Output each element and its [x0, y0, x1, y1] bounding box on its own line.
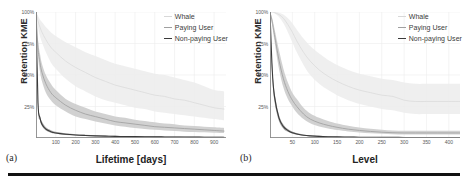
legend-line-swatch-icon — [398, 16, 406, 17]
legend-item-whale: Whale — [398, 12, 462, 21]
legend-b: WhalePaying UserNon-paying User — [398, 12, 462, 43]
legend-line-swatch-icon — [164, 27, 172, 28]
panel-b: Retention KME 100%75%50%25%5010015020025… — [234, 0, 468, 181]
panel-tag-a: (a) — [6, 152, 17, 163]
x-tick-label: 500 — [131, 139, 139, 145]
x-tick-label: 100 — [311, 139, 319, 145]
legend-line-swatch-icon — [398, 38, 406, 39]
y-tick-label: 50% — [258, 72, 268, 78]
panel-tag-b: (b) — [240, 152, 252, 163]
legend-label: Paying User — [409, 24, 448, 31]
legend-item-non-paying-user: Non-paying User — [164, 34, 228, 43]
legend-label: Non-paying User — [175, 35, 228, 42]
legend-a: WhalePaying UserNon-paying User — [164, 12, 228, 43]
x-tick-label: 700 — [171, 139, 179, 145]
y-tick-label: 50% — [24, 72, 34, 78]
y-tick-label: 75% — [258, 41, 268, 47]
legend-item-paying-user: Paying User — [164, 23, 228, 32]
y-tick-label: 25% — [24, 104, 34, 110]
bottom-horizontal-rule — [8, 173, 460, 176]
x-tick-label: 300 — [91, 139, 99, 145]
y-tick-label: 100% — [22, 9, 34, 15]
x-tick-label: 200 — [355, 139, 363, 145]
legend-line-swatch-icon — [164, 38, 172, 39]
x-axis-label-a: Lifetime [days] — [36, 154, 226, 165]
x-tick-label: 400 — [111, 139, 119, 145]
legend-label: Whale — [175, 13, 195, 20]
x-tick-label: 100 — [52, 139, 60, 145]
legend-item-non-paying-user: Non-paying User — [398, 34, 462, 43]
legend-label: Paying User — [175, 24, 214, 31]
legend-label: Non-paying User — [409, 35, 462, 42]
y-axis-label-b: Retention KME — [253, 3, 263, 99]
legend-item-paying-user: Paying User — [398, 23, 462, 32]
y-axis-label-a: Retention KME — [19, 3, 29, 99]
x-axis-label-b: Level — [270, 154, 460, 165]
x-tick-label: 350 — [422, 139, 430, 145]
y-tick-label: 75% — [24, 41, 34, 47]
legend-item-whale: Whale — [164, 12, 228, 21]
legend-line-swatch-icon — [398, 27, 406, 28]
x-tick-label: 600 — [151, 139, 159, 145]
x-tick-label: 800 — [190, 139, 198, 145]
figure-container: Retention KME 100%75%50%25%1002003004005… — [0, 0, 468, 181]
legend-label: Whale — [409, 13, 429, 20]
x-tick-label: 300 — [400, 139, 408, 145]
x-tick-label: 400 — [445, 139, 453, 145]
y-tick-label: 100% — [256, 9, 268, 15]
x-tick-label: 900 — [210, 139, 218, 145]
x-tick-label: 250 — [378, 139, 386, 145]
x-tick-label: 150 — [333, 139, 341, 145]
panel-a: Retention KME 100%75%50%25%1002003004005… — [0, 0, 234, 181]
x-tick-label: 50 — [290, 139, 295, 145]
legend-line-swatch-icon — [164, 16, 172, 17]
y-tick-label: 25% — [258, 104, 268, 110]
x-tick-label: 200 — [72, 139, 80, 145]
